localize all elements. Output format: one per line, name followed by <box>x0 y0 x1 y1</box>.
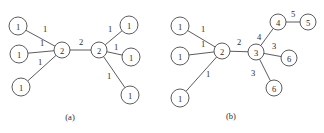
node-label: 1 <box>129 53 133 63</box>
node-label: 5 <box>306 18 310 28</box>
graph-svg-canvas: 11122111111234566 111211111124533 (a)(b) <box>0 0 324 133</box>
node-label: 1 <box>16 22 20 32</box>
node-label: 3 <box>254 48 258 58</box>
graph-node: 1 <box>121 86 139 104</box>
graph-node: 1 <box>171 47 189 65</box>
graph-node: 2 <box>91 42 107 58</box>
node-label: 1 <box>178 94 182 104</box>
graph-node: 4 <box>270 14 286 30</box>
graph-node: 1 <box>10 45 28 63</box>
graph-node: 1 <box>171 17 189 35</box>
graph-node: 5 <box>300 14 316 30</box>
node-label: 1 <box>17 50 21 60</box>
node-label: 1 <box>19 83 23 93</box>
edge-weight-label: 1 <box>201 39 205 49</box>
edge-weight-label: 1 <box>206 69 210 79</box>
node-label: 1 <box>178 52 182 62</box>
figure-container: 11122111111234566 111211111124533 (a)(b) <box>0 0 324 133</box>
edge-weight-label: 4 <box>257 32 262 42</box>
edge-weight-label: 1 <box>108 24 112 34</box>
node-label: 1 <box>127 21 131 31</box>
edge-weight-label: 1 <box>40 38 44 48</box>
node-label: 2 <box>220 47 224 57</box>
edge-weight-label: 1 <box>107 71 111 81</box>
graph-node: 6 <box>266 80 282 96</box>
edge-weight-label: 3 <box>251 68 255 78</box>
graph-edge <box>230 51 248 52</box>
node-label: 2 <box>60 46 64 56</box>
node-label: 6 <box>287 54 291 64</box>
edge-weight-label: 3 <box>272 41 276 51</box>
captions-layer: (a)(b) <box>65 111 236 122</box>
graph-node: 1 <box>12 78 30 96</box>
edge-weight-label: 1 <box>38 57 42 67</box>
graph-node: 6 <box>281 50 297 66</box>
graph-edge <box>186 57 217 91</box>
graph-edge <box>107 52 122 55</box>
nodes-layer: 11122111111234566 <box>9 14 316 107</box>
edge-weight-label: 1 <box>201 24 205 34</box>
node-label: 1 <box>128 91 132 101</box>
graph-node: 1 <box>171 89 189 107</box>
node-label: 6 <box>272 84 276 94</box>
graph-node: 1 <box>9 17 27 35</box>
edge-weight-label: 1 <box>114 42 118 52</box>
edge-weight-label: 2 <box>237 37 241 47</box>
panel-caption: (a) <box>65 112 75 122</box>
graph-edge <box>260 59 271 81</box>
node-label: 1 <box>178 22 182 32</box>
edge-weight-label: 5 <box>291 9 295 19</box>
edge-weight-label: 2 <box>79 37 83 47</box>
edge-weight-label: 1 <box>43 24 47 34</box>
graph-node: 3 <box>248 44 264 60</box>
graph-edge <box>28 51 54 53</box>
graph-node: 1 <box>122 48 140 66</box>
graph-edge <box>264 53 281 56</box>
graph-node: 2 <box>54 42 70 58</box>
node-label: 2 <box>97 46 101 56</box>
graph-edge <box>189 52 214 55</box>
graph-node: 2 <box>214 43 230 59</box>
panel-caption: (b) <box>226 111 236 121</box>
graph-node: 1 <box>120 16 138 34</box>
